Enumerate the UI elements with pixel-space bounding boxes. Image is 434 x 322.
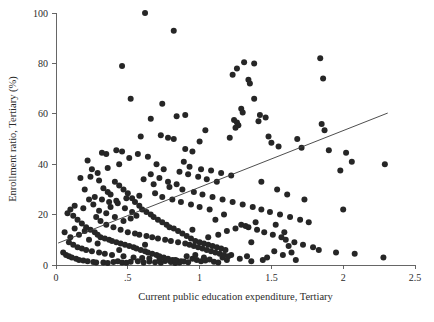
scatter-point xyxy=(86,196,92,202)
scatter-point xyxy=(218,170,224,176)
scatter-point xyxy=(89,166,95,172)
x-tick-label: 1.5 xyxy=(265,272,278,283)
scatter-plot-figure: 020406080100 0.511.522.5 Current public … xyxy=(0,0,434,322)
y-tick-label: 40 xyxy=(38,159,48,170)
y-tick-label: 60 xyxy=(38,108,48,119)
y-tick-label: 0 xyxy=(43,260,48,271)
scatter-point xyxy=(264,254,270,260)
scatter-point xyxy=(77,175,83,181)
scatter-point xyxy=(322,127,328,133)
scatter-point xyxy=(165,179,171,185)
scatter-point xyxy=(220,196,226,202)
scatter-point xyxy=(86,237,92,243)
scatter-point xyxy=(254,227,260,233)
scatter-point xyxy=(143,233,149,239)
scatter-point xyxy=(80,205,86,211)
scatter-point xyxy=(284,191,290,197)
scatter-point xyxy=(233,225,239,231)
scatter-point xyxy=(188,202,194,208)
scatter-point xyxy=(168,238,174,244)
x-tick-label: .5 xyxy=(124,272,132,283)
scatter-point xyxy=(95,241,101,247)
scatter-point xyxy=(248,239,254,245)
scatter-point xyxy=(248,258,254,264)
scatter-points xyxy=(60,10,388,266)
scatter-point xyxy=(230,199,236,205)
scatter-point xyxy=(251,96,257,102)
scatter-point xyxy=(343,150,349,156)
scatter-point xyxy=(266,133,272,139)
scatter-point xyxy=(136,193,142,199)
scatter-point xyxy=(112,214,118,220)
scatter-point xyxy=(128,96,134,102)
scatter-point xyxy=(241,59,247,65)
scatter-point xyxy=(126,155,132,161)
scatter-point xyxy=(103,210,109,216)
scatter-point xyxy=(205,234,211,240)
scatter-point xyxy=(172,257,178,263)
scatter-point xyxy=(62,229,68,235)
scatter-point xyxy=(72,225,78,231)
scatter-point xyxy=(306,219,312,225)
scatter-point xyxy=(113,147,119,153)
scatter-point xyxy=(105,165,111,171)
scatter-point xyxy=(138,133,144,139)
x-tick-label: 0 xyxy=(54,272,59,283)
scatter-point xyxy=(161,166,167,172)
y-axis-ticks: 020406080100 xyxy=(33,8,56,271)
scatter-point xyxy=(120,218,126,224)
scatter-point xyxy=(208,168,214,174)
scatter-point xyxy=(268,140,274,146)
scatter-point xyxy=(207,207,213,213)
scatter-point xyxy=(151,181,157,187)
scatter-point xyxy=(156,256,162,262)
scatter-point xyxy=(270,232,276,238)
scatter-point xyxy=(162,237,168,243)
scatter-point xyxy=(283,237,289,243)
x-tick-label: 2.5 xyxy=(409,272,422,283)
scatter-point xyxy=(159,101,165,107)
scatter-point xyxy=(224,228,230,234)
scatter-point xyxy=(204,176,210,182)
scatter-point xyxy=(123,195,129,201)
scatter-point xyxy=(175,239,181,245)
scatter-point xyxy=(297,217,303,223)
scatter-point xyxy=(333,249,339,255)
regression-fit-line xyxy=(58,113,388,243)
scatter-point xyxy=(240,110,246,116)
scatter-point xyxy=(165,135,171,141)
scatter-point xyxy=(179,186,185,192)
y-tick-label: 20 xyxy=(38,209,48,220)
scatter-point xyxy=(233,125,239,131)
scatter-point xyxy=(380,254,386,260)
scatter-point xyxy=(310,244,316,250)
scatter-point xyxy=(159,194,165,200)
scatter-point xyxy=(155,236,161,242)
y-tick-label: 80 xyxy=(38,58,48,69)
scatter-point xyxy=(197,139,203,145)
scatter-point xyxy=(148,171,154,177)
scatter-point xyxy=(255,118,261,124)
scatter-point xyxy=(227,135,233,141)
scatter-point xyxy=(89,248,95,254)
scatter-point xyxy=(178,199,184,205)
scatter-point xyxy=(253,219,259,225)
scatter-point xyxy=(215,259,221,265)
scatter-point xyxy=(258,179,264,185)
scatter-point xyxy=(135,151,141,157)
scatter-point xyxy=(99,196,105,202)
scatter-point xyxy=(116,161,122,167)
scatter-point xyxy=(225,253,231,259)
scatter-point xyxy=(337,168,343,174)
scatter-point xyxy=(96,208,102,214)
scatter-point xyxy=(108,204,114,210)
scatter-point xyxy=(198,166,204,172)
scatter-point xyxy=(102,251,108,257)
scatter-point xyxy=(243,223,249,229)
scatter-point xyxy=(98,218,104,224)
scatter-point xyxy=(210,194,216,200)
scatter-point xyxy=(201,254,207,260)
scatter-point xyxy=(221,212,227,218)
scatter-point xyxy=(276,144,282,150)
scatter-point xyxy=(189,227,195,233)
